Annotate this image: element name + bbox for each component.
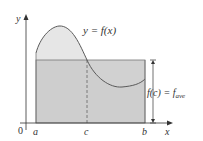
average-rectangle <box>36 60 145 123</box>
mean-value-diagram: y = f(x) y x 0 a c b f(c) = fave <box>0 0 203 141</box>
tick-b-label: b <box>142 126 147 137</box>
arrow-down-icon <box>151 119 155 123</box>
tick-c-label: c <box>84 126 89 137</box>
tick-a-label: a <box>33 126 38 137</box>
arrow-up-icon <box>151 60 155 64</box>
axis-y-label: y <box>15 13 21 24</box>
y-axis-arrow-icon <box>24 14 29 20</box>
curve-label: y = f(x) <box>82 24 116 37</box>
x-axis-arrow-icon <box>167 121 173 126</box>
axis-x-label: x <box>164 126 170 137</box>
origin-label: 0 <box>18 125 23 136</box>
